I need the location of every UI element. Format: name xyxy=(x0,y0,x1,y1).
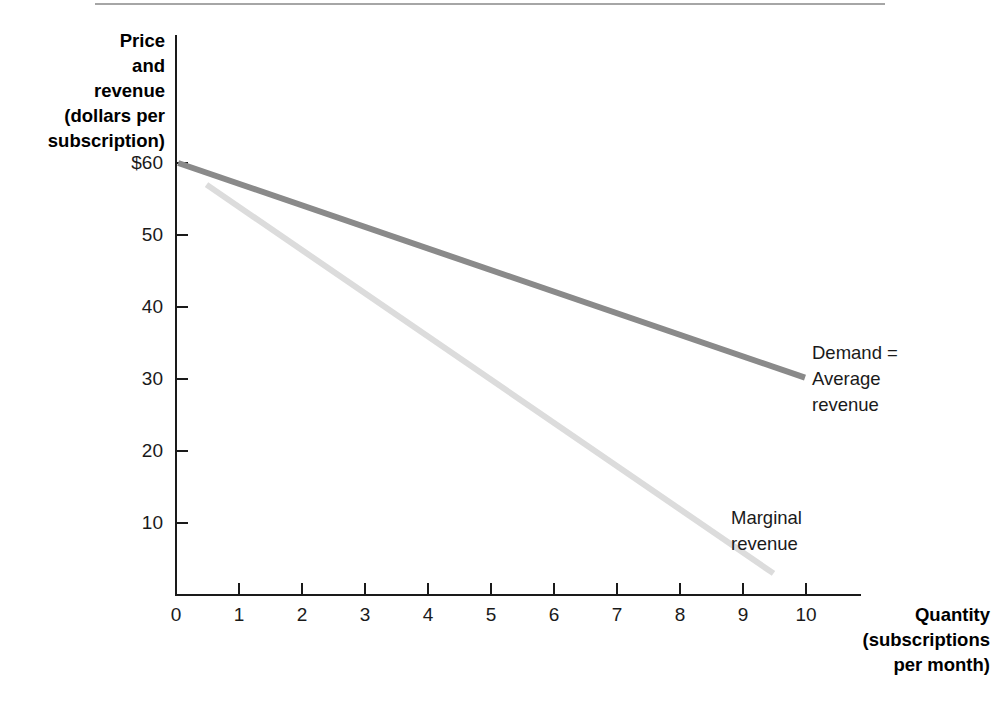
x-tick-label-6: 6 xyxy=(534,604,574,625)
x-tick-label-3: 3 xyxy=(345,604,385,625)
marginal-revenue-curve-label: Marginal revenue xyxy=(731,505,802,557)
y-tick-30 xyxy=(177,378,188,380)
y-tick-60 xyxy=(177,162,188,164)
y-tick-label-10: 10 xyxy=(101,513,163,532)
x-axis-line xyxy=(175,594,861,596)
figure-root: $60 50 40 30 20 10 0 1 2 3 4 xyxy=(0,0,992,710)
y-tick-label-10-wrap: 10 xyxy=(101,513,163,532)
x-tick-8 xyxy=(679,583,681,594)
x-tick-label-9: 9 xyxy=(723,604,763,625)
y-tick-10 xyxy=(177,522,188,524)
y-tick-label-20-wrap: 20 xyxy=(101,441,163,460)
x-tick-label-1: 1 xyxy=(219,604,259,625)
x-tick-2 xyxy=(301,583,303,594)
y-tick-label-30: 30 xyxy=(101,369,163,388)
x-tick-4 xyxy=(427,583,429,594)
x-tick-label-8: 8 xyxy=(660,604,700,625)
y-tick-label-40-wrap: 40 xyxy=(101,297,163,316)
y-tick-20 xyxy=(177,450,188,452)
y-axis-title: Price and revenue (dollars per subscript… xyxy=(0,28,165,153)
x-tick-7 xyxy=(616,583,618,594)
x-tick-10 xyxy=(805,583,807,594)
x-tick-3 xyxy=(364,583,366,594)
demand-average-revenue-curve xyxy=(178,163,805,378)
x-tick-9 xyxy=(742,583,744,594)
y-tick-label-40: 40 xyxy=(101,297,163,316)
x-tick-label-7: 7 xyxy=(597,604,637,625)
x-tick-label-0: 0 xyxy=(156,604,196,625)
x-tick-6 xyxy=(553,583,555,594)
y-tick-label-60: $60 xyxy=(101,153,163,172)
x-tick-5 xyxy=(490,583,492,594)
marginal-revenue-curve xyxy=(207,185,774,574)
x-tick-label-5: 5 xyxy=(471,604,511,625)
y-tick-label-20: 20 xyxy=(101,441,163,460)
x-tick-1 xyxy=(238,583,240,594)
y-tick-label-60-wrap: $60 xyxy=(101,153,163,172)
y-tick-label-50-wrap: 50 xyxy=(101,225,163,244)
y-axis-line xyxy=(175,35,177,596)
y-tick-label-50: 50 xyxy=(101,225,163,244)
plot-area: $60 50 40 30 20 10 0 1 2 3 4 xyxy=(0,0,992,710)
y-tick-label-30-wrap: 30 xyxy=(101,369,163,388)
demand-curve-label: Demand = Average revenue xyxy=(812,340,898,418)
x-axis-title: Quantity (subscriptions per month) xyxy=(805,602,990,677)
y-tick-50 xyxy=(177,234,188,236)
y-tick-40 xyxy=(177,306,188,308)
x-tick-label-4: 4 xyxy=(408,604,448,625)
x-tick-label-2: 2 xyxy=(282,604,322,625)
